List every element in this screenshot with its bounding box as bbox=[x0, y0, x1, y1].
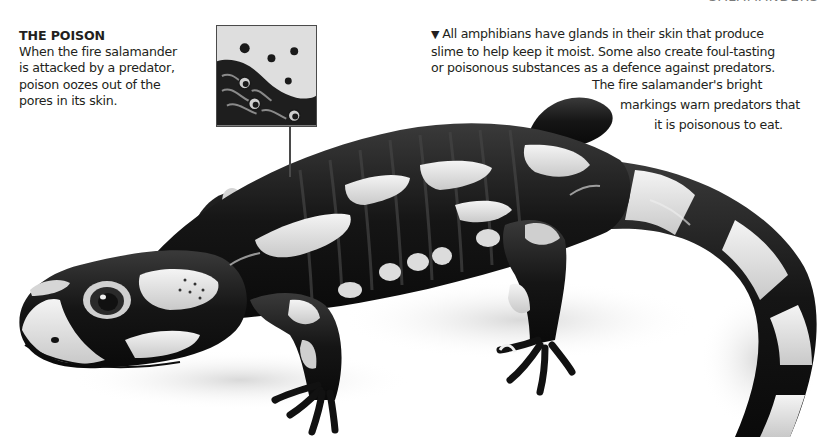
intro-line: slime to help keep it moist. Some also c… bbox=[431, 44, 823, 61]
poison-callout-line: pores in its skin. bbox=[19, 93, 219, 109]
poison-callout-title: THE POISON bbox=[19, 28, 219, 44]
book-page: SALAMANDERS bbox=[0, 0, 823, 437]
caption-line: The fire salamander's bright bbox=[592, 75, 762, 95]
intro-line-text: All amphibians have glands in their skin… bbox=[442, 26, 764, 41]
poison-callout-line: When the fire salamander bbox=[19, 44, 219, 60]
skin-closeup-inset bbox=[216, 25, 317, 127]
poison-callout-line: is attacked by a predator, bbox=[19, 60, 219, 76]
callout-connector-line bbox=[289, 127, 291, 177]
nostril bbox=[51, 337, 59, 343]
intro-paragraph: ▼All amphibians have glands in their ski… bbox=[431, 26, 823, 77]
poison-callout-line: poison oozes out of the bbox=[19, 77, 219, 93]
down-triangle-icon: ▼ bbox=[431, 28, 439, 41]
caption-line: it is poisonous to eat. bbox=[654, 115, 783, 135]
skin-closeup-image bbox=[217, 26, 316, 126]
caption-line: markings warn predators that bbox=[620, 95, 800, 115]
intro-line: ▼All amphibians have glands in their ski… bbox=[431, 26, 823, 44]
poison-callout: THE POISON When the fire salamander is a… bbox=[19, 28, 219, 109]
